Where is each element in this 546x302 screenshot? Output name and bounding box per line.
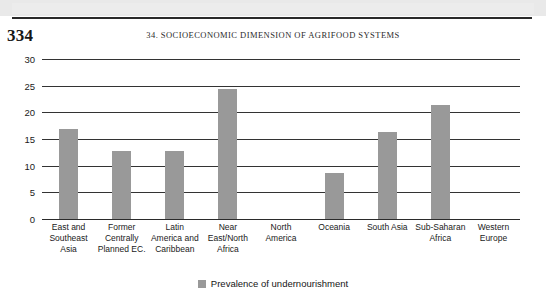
x-axis-category-label: NearEast/NorthAfrica — [201, 222, 254, 255]
y-axis-tick-label: 30 — [24, 54, 35, 65]
bar — [218, 89, 237, 220]
bar — [59, 129, 78, 220]
chart-legend: Prevalence of undernourishment — [0, 278, 546, 289]
bar-slot — [467, 60, 520, 220]
bar-slot — [414, 60, 467, 220]
y-axis-tick-label: 5 — [30, 187, 35, 198]
y-axis-tick-label: 10 — [24, 160, 35, 171]
legend-label: Prevalence of undernourishment — [211, 278, 348, 289]
legend-swatch-icon — [198, 280, 206, 288]
x-axis-category-line: South Asia — [362, 222, 413, 233]
x-axis-category-line: Caribbean — [149, 244, 200, 255]
x-axis-labels: East andSoutheastAsiaFormerCentrallyPlan… — [42, 222, 520, 255]
x-axis-category-line: Oceania — [309, 222, 360, 233]
bar-slot — [308, 60, 361, 220]
x-axis-category-line: Asia — [43, 244, 94, 255]
bar-series — [42, 60, 520, 220]
y-axis-tick-label: 25 — [24, 80, 35, 91]
scan-top-banner — [0, 0, 546, 16]
x-axis-category-label: East andSoutheastAsia — [42, 222, 95, 255]
x-axis-category-line: Africa — [202, 244, 253, 255]
x-axis-category-line: Latin — [149, 222, 200, 233]
bar-slot — [148, 60, 201, 220]
bar-slot — [42, 60, 95, 220]
x-axis-category-line: Western — [468, 222, 519, 233]
x-axis-category-label: LatinAmerica andCaribbean — [148, 222, 201, 255]
x-axis-category-line: America — [255, 233, 306, 244]
x-axis-category-line: Europe — [468, 233, 519, 244]
x-axis-category-label: WesternEurope — [467, 222, 520, 255]
x-axis-category-label: NorthAmerica — [254, 222, 307, 255]
bar-chart: 051015202530 East andSoutheastAsiaFormer… — [0, 52, 546, 302]
bar-slot — [361, 60, 414, 220]
plot-area: 051015202530 — [42, 60, 520, 220]
y-axis-tick-label: 15 — [24, 134, 35, 145]
x-axis-category-line: America and — [149, 233, 200, 244]
running-head: 34. SOCIOECONOMIC DIMENSION OF AGRIFOOD … — [0, 30, 546, 40]
x-axis-category-line: Planned EC. — [96, 244, 147, 255]
y-axis-tick-label: 20 — [24, 107, 35, 118]
x-axis-category-line: Former — [96, 222, 147, 233]
bar-slot — [201, 60, 254, 220]
y-axis-tick-label: 0 — [30, 214, 35, 225]
x-axis-category-label: Oceania — [308, 222, 361, 255]
x-axis-line — [42, 219, 520, 221]
header-rule — [12, 17, 532, 19]
x-axis-category-line: Sub-Saharan — [415, 222, 466, 233]
bar-slot — [95, 60, 148, 220]
x-axis-category-line: North — [255, 222, 306, 233]
bar — [325, 173, 344, 220]
bar — [112, 151, 131, 220]
x-axis-category-line: Africa — [415, 233, 466, 244]
x-axis-category-line: Near — [202, 222, 253, 233]
x-axis-category-line: East/North — [202, 233, 253, 244]
x-axis-category-label: FormerCentrallyPlanned EC. — [95, 222, 148, 255]
x-axis-category-label: Sub-SaharanAfrica — [414, 222, 467, 255]
x-axis-category-line: Southeast — [43, 233, 94, 244]
scan-top-banner-inner — [12, 3, 534, 14]
bar-slot — [254, 60, 307, 220]
bar — [431, 105, 450, 220]
bar — [378, 132, 397, 220]
x-axis-category-line: East and — [43, 222, 94, 233]
x-axis-category-line: Centrally — [96, 233, 147, 244]
bar — [165, 151, 184, 220]
x-axis-category-label: South Asia — [361, 222, 414, 255]
